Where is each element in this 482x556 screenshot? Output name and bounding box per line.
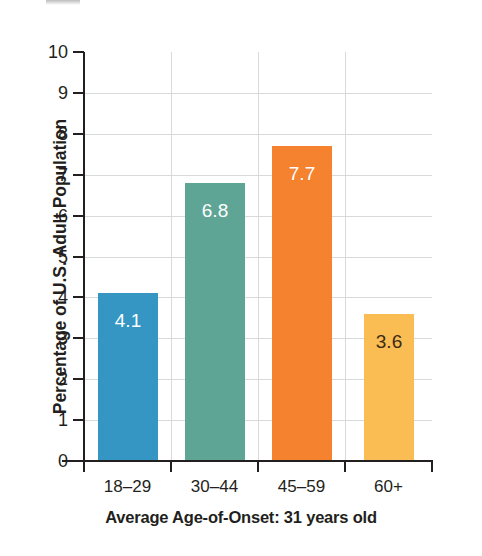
gridline-vertical: [171, 52, 172, 461]
y-tick-mark: [73, 378, 84, 380]
x-axis-line: [62, 460, 433, 462]
y-tick-label: 10: [36, 43, 68, 61]
y-tick-mark: [73, 174, 84, 176]
x-tick-mark: [431, 461, 433, 472]
bar-value-label: 4.1: [98, 311, 158, 330]
cropped-title-remnant: [46, 0, 80, 5]
y-tick-mark: [73, 337, 84, 339]
y-tick-mark: [73, 419, 84, 421]
y-tick-mark: [73, 133, 84, 135]
bar-value-label: 3.6: [364, 332, 414, 351]
plot-area: 4.16.87.73.6: [84, 52, 432, 461]
y-tick-mark: [73, 256, 84, 258]
x-tick-mark: [83, 461, 85, 472]
y-tick-mark: [73, 92, 84, 94]
y-tick-label: 7: [36, 166, 68, 184]
bar: 3.6: [364, 314, 414, 461]
bar-value-label: 6.8: [185, 201, 245, 220]
y-tick-label: 0: [36, 452, 68, 470]
x-tick-mark: [344, 461, 346, 472]
gridline-vertical: [345, 52, 346, 461]
y-tick-label: 4: [36, 288, 68, 306]
y-tick-label: 3: [36, 329, 68, 347]
bar: 6.8: [185, 183, 245, 461]
x-tick-label: 60+: [334, 477, 444, 497]
x-tick-mark: [257, 461, 259, 472]
y-tick-mark: [73, 296, 84, 298]
bar: 7.7: [272, 146, 332, 461]
bar-chart-figure: Percentage of U.S. Adult Population 4.16…: [0, 0, 482, 556]
gridline-vertical: [258, 52, 259, 461]
y-tick-label: 1: [36, 411, 68, 429]
y-tick-label: 9: [36, 84, 68, 102]
x-tick-mark: [170, 461, 172, 472]
y-tick-label: 5: [36, 248, 68, 266]
bar: 4.1: [98, 293, 158, 461]
chart-caption: Average Age-of-Onset: 31 years old: [0, 508, 482, 527]
bar-value-label: 7.7: [272, 164, 332, 183]
y-tick-mark: [73, 215, 84, 217]
y-tick-mark: [73, 51, 84, 53]
y-tick-label: 2: [36, 370, 68, 388]
y-tick-label: 6: [36, 207, 68, 225]
y-tick-label: 8: [36, 125, 68, 143]
